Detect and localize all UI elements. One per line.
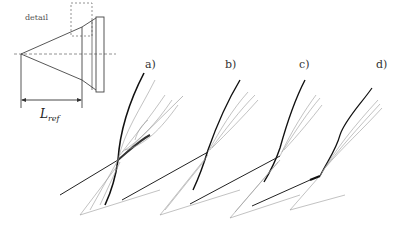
panel-c-label: c) [299, 58, 309, 71]
flange [96, 17, 104, 92]
figure: detail Lref a) b) c) d) [0, 0, 404, 230]
panel-b-label: b) [225, 58, 236, 71]
panel-a-flowfield [60, 73, 183, 215]
panel-d-flowfield [252, 88, 382, 210]
length-subscript: ref [48, 114, 60, 123]
schematic-drawing [0, 0, 404, 230]
panel-b-flowfield [122, 80, 258, 215]
length-label: Lref [40, 107, 60, 123]
panel-a-label: a) [145, 58, 156, 71]
length-symbol: L [40, 107, 48, 121]
panel-d-label: d) [376, 58, 387, 71]
detail-box [71, 3, 92, 36]
detail-label: detail [25, 13, 48, 22]
